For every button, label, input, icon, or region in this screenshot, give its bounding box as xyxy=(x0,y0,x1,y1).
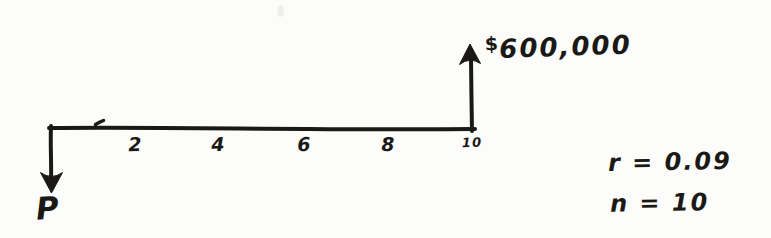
tick-label-6: 6 xyxy=(292,133,317,156)
rate-annotation: r = 0.09 xyxy=(608,147,732,177)
tick-label-10: 10 xyxy=(460,135,485,151)
cash-flow-diagram: 2 4 6 8 10 P $600,000 r = 0.09 n = 10 xyxy=(0,0,771,238)
future-value-amount: 600,000 xyxy=(499,29,632,64)
tick-label-8: 8 xyxy=(376,133,401,156)
currency-sign: $ xyxy=(484,32,498,54)
periods-annotation: n = 10 xyxy=(610,188,710,218)
tick-label-4: 4 xyxy=(206,133,231,156)
present-value-label: P xyxy=(35,189,60,226)
timeline-axis xyxy=(49,128,475,130)
tick-label-2: 2 xyxy=(123,133,148,156)
up-arrow-shaft xyxy=(471,57,472,131)
future-value-label: $600,000 xyxy=(484,27,632,64)
tick-mark xyxy=(96,121,104,125)
paper-smudge xyxy=(277,5,284,17)
